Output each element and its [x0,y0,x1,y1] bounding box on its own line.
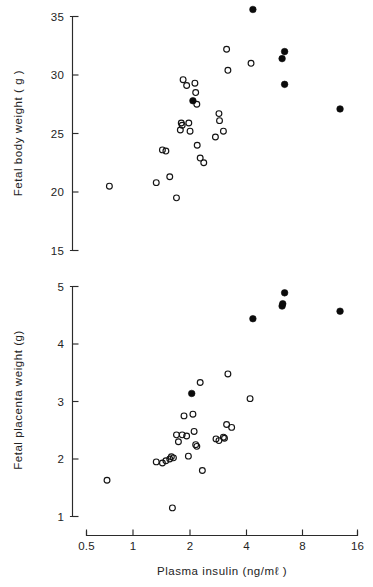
data-point-open [190,411,196,417]
top-y-tick-labels: 35 30 25 20 15 [51,11,64,257]
data-point-open [181,413,187,419]
data-point-open [193,90,199,96]
data-point-open [153,180,159,186]
data-point-filled [250,6,257,13]
top-y-tick-label: 35 [51,11,64,23]
data-point-open [194,142,200,148]
data-point-filled [281,81,288,88]
bottom-y-tick-label: 5 [57,281,64,293]
x-tick-label: 8 [299,540,306,552]
data-point-open [224,46,230,52]
data-point-open [176,439,182,445]
data-point-open [187,128,193,134]
data-point-filled [250,315,257,322]
data-point-filled [279,300,286,307]
data-point-open [213,134,219,140]
x-axis-line [87,532,358,536]
data-point-open [192,80,198,86]
figure-canvas: 35 30 25 20 15 Fetal body weight ( g ) 5… [0,0,373,587]
data-point-open [104,477,110,483]
data-point-open [153,459,159,465]
data-point-open [191,429,197,435]
x-tick-label: 16 [351,540,364,552]
top-y-ticks [73,17,79,251]
data-point-filled [188,390,195,397]
top-y-tick-label: 30 [51,69,64,81]
data-point-open [197,380,203,386]
bottom-y-tick-label: 1 [57,511,64,523]
data-point-open [199,468,205,474]
data-point-open [174,195,180,201]
data-point-open [225,67,231,73]
data-point-filled [281,48,288,55]
data-point-open [229,424,235,430]
data-point-filled [279,55,286,62]
scatter-figure: 35 30 25 20 15 Fetal body weight ( g ) 5… [0,0,373,587]
data-point-filled [190,97,197,104]
data-point-open [106,183,112,189]
x-tick-label: 1 [130,540,137,552]
x-tick-label: 4 [243,540,250,552]
bottom-panel: 5 4 3 2 1 Fetal placenta weight (g) 0.5 … [12,281,364,578]
data-point-open [201,160,207,166]
bottom-y-tick-label: 2 [57,453,64,465]
data-point-open [186,120,192,126]
data-point-open [167,174,173,180]
data-point-open [247,396,253,402]
bottom-y-axis-title: Fetal placenta weight (g) [12,330,24,470]
bottom-y-ticks [73,287,79,517]
top-y-tick-label: 20 [51,186,64,198]
data-point-open [163,148,169,154]
data-point-open [180,77,186,83]
data-point-open [170,505,176,511]
top-data-points [106,6,343,201]
data-point-filled [337,106,344,113]
bottom-y-tick-labels: 5 4 3 2 1 [57,281,64,523]
x-tick-label: 2 [187,540,194,552]
x-axis-title: Plasma insulin (ng/mℓ ) [157,565,287,577]
data-point-open [217,118,223,124]
data-point-filled [281,290,288,297]
data-point-open [225,371,231,377]
x-tick-labels: 0.5 1 2 4 8 16 [78,540,364,552]
top-y-tick-label: 15 [51,245,64,257]
bottom-data-points [104,290,343,511]
bottom-y-tick-label: 4 [57,338,64,350]
bottom-y-tick-label: 3 [57,396,64,408]
data-point-open [216,111,222,117]
data-point-filled [337,308,344,315]
data-point-open [184,83,190,89]
x-ticks [87,530,358,536]
data-point-open [160,147,166,153]
data-point-open [174,432,180,438]
top-y-tick-label: 25 [51,128,64,140]
x-tick-label: 0.5 [78,540,95,552]
data-point-open [194,443,200,449]
data-point-open [185,453,191,459]
data-point-open [248,60,254,66]
top-y-axis-title: Fetal body weight ( g ) [12,70,24,196]
data-point-open [221,128,227,134]
top-panel: 35 30 25 20 15 Fetal body weight ( g ) [12,6,343,256]
